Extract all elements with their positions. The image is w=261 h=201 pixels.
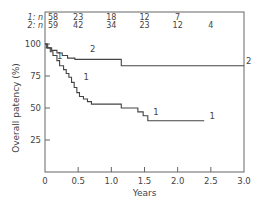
curve-label: 1 — [153, 107, 158, 117]
plot-frame — [45, 12, 244, 172]
risk-count: 4 — [208, 21, 213, 30]
y-axis-label: Overall patency (%) — [11, 63, 21, 153]
curve-label: 1 — [210, 111, 215, 121]
risk-count: 34 — [106, 21, 116, 30]
risk-count: 59 — [48, 21, 58, 30]
risk-count: 12 — [173, 21, 183, 30]
survival-curves — [45, 44, 244, 121]
curve-label: 1 — [57, 51, 62, 61]
x-tick-label: 0 — [42, 176, 47, 186]
curve-2 — [45, 44, 244, 66]
x-tick-label: 1.5 — [138, 176, 152, 186]
curve-labels: 111122 — [57, 44, 251, 121]
curve-label: 2 — [90, 44, 95, 54]
x-tick-label: 2.5 — [204, 176, 218, 186]
curve-label: 2 — [246, 56, 251, 66]
curve-1 — [45, 44, 204, 121]
x-axis-label: Years — [132, 188, 157, 198]
y-tick-label: 100 — [25, 39, 41, 49]
risk-count: 23 — [139, 21, 149, 30]
x-tick-label: 1.0 — [105, 176, 119, 186]
curve-label: 1 — [83, 72, 88, 82]
x-tick-label: 2.0 — [171, 176, 185, 186]
y-tick-label: 75 — [30, 71, 41, 81]
y-tick-label: 50 — [30, 103, 41, 113]
risk-table: 1: n5823181272: n59423423124 — [28, 13, 214, 30]
risk-row-label: 2: n — [28, 21, 43, 30]
x-tick-label: 3.0 — [237, 176, 251, 186]
y-tick-label: 25 — [30, 135, 41, 145]
risk-count: 42 — [73, 21, 83, 30]
x-tick-label: 0.5 — [71, 176, 85, 186]
kaplan-meier-chart: 1: n5823181272: n59423423124 00.51.01.52… — [0, 0, 261, 201]
